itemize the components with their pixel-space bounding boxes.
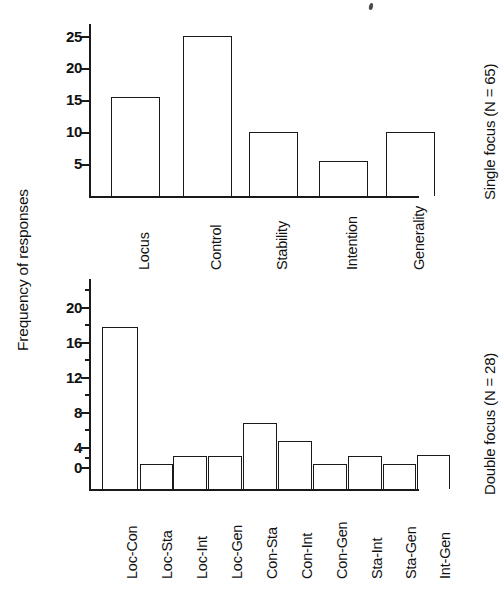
- y-tick-15: [81, 100, 90, 102]
- y-axis-title: Frequency of responses: [14, 189, 32, 351]
- panel-title-double-focus: Double focus (N = 28): [481, 353, 498, 495]
- x-label-control: Control: [208, 225, 224, 270]
- bar-control: [183, 36, 232, 196]
- bar-loc-int: [173, 456, 207, 489]
- bar-loc-sta: [140, 464, 173, 489]
- x-label-loc-int: Loc-Int: [194, 536, 210, 579]
- ytick-label: 20: [46, 300, 82, 315]
- y-tick-16: [81, 342, 90, 344]
- y-tick-4: [81, 447, 90, 449]
- x-label-loc-sta: Loc-Sta: [159, 530, 175, 579]
- bar-loc-con: [102, 327, 138, 489]
- y-tick-20: [81, 68, 90, 70]
- x-label-int-gen: Int-Gen: [437, 532, 453, 579]
- ytick-label: 5: [46, 156, 82, 171]
- y-tick-minor-2: [85, 457, 90, 459]
- y-tick-5: [81, 164, 90, 166]
- y-tick-0: [81, 467, 90, 469]
- x-label-con-sta: Con-Sta: [264, 527, 280, 579]
- x-label-locus: Locus: [136, 232, 152, 270]
- y-tick-minor-14: [85, 359, 90, 361]
- figure-root: Frequency of responses 25 20 15 10 5 Loc…: [0, 0, 504, 589]
- bar-sta-gen: [383, 464, 416, 489]
- ytick-label: 25: [46, 29, 82, 44]
- y-tick-25: [81, 36, 90, 38]
- bar-intention: [319, 161, 368, 196]
- ytick-label: 20: [46, 60, 82, 75]
- ytick-label: 10: [46, 124, 82, 139]
- y-tick-minor-18: [85, 324, 90, 326]
- y-tick-12: [81, 377, 90, 379]
- ytick-label: 0: [46, 460, 82, 475]
- bar-locus: [111, 97, 160, 196]
- panel-title-single-focus: Single focus (N = 65): [481, 64, 498, 200]
- y-tick-20: [81, 307, 90, 309]
- x-label-loc-con: Loc-Con: [124, 526, 140, 579]
- bar-con-sta: [243, 423, 277, 489]
- bar-loc-gen: [208, 456, 242, 489]
- bar-con-gen: [313, 464, 347, 489]
- y-axis-line: [89, 24, 91, 198]
- x-label-con-int: Con-Int: [299, 533, 315, 579]
- y-tick-10: [81, 132, 90, 134]
- ytick-label: 4: [46, 440, 82, 455]
- bar-int-gen: [417, 455, 450, 489]
- ytick-label: 12: [46, 370, 82, 385]
- x-label-stability: Stability: [274, 221, 290, 270]
- ytick-label: 16: [46, 335, 82, 350]
- ytick-label: 15: [46, 92, 82, 107]
- y-tick-minor-10: [85, 394, 90, 396]
- bar-stability: [249, 132, 298, 196]
- x-label-loc-gen: Loc-Gen: [229, 525, 245, 579]
- x-label-sta-gen: Sta-Gen: [403, 526, 419, 579]
- x-label-intention: Intention: [344, 216, 360, 270]
- y-tick-minor-6: [85, 429, 90, 431]
- bar-sta-int: [348, 456, 382, 489]
- bar-con-int: [278, 441, 312, 489]
- x-axis-line: [89, 489, 419, 491]
- x-label-con-gen: Con-Gen: [334, 522, 350, 579]
- bar-generality: [386, 132, 435, 196]
- y-tick-minor-22: [85, 289, 90, 291]
- scan-artifact-speck: [368, 3, 374, 11]
- x-axis-line: [89, 196, 419, 198]
- ytick-label: 8: [46, 405, 82, 420]
- y-tick-8: [81, 412, 90, 414]
- x-label-generality: Generality: [411, 206, 427, 270]
- y-axis-line: [89, 279, 91, 491]
- x-label-sta-int: Sta-Int: [369, 538, 385, 579]
